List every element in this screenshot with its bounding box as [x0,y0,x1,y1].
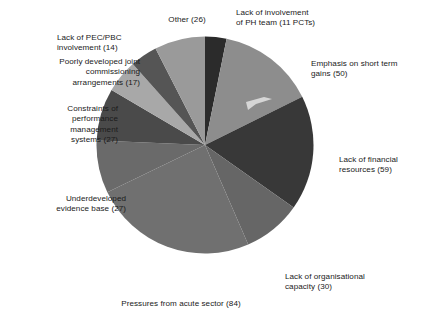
pie-chart: Lack of involvement of PH team (11 PCTs)… [0,0,431,323]
slice-label-organisational: Lack of organisational capacity (30) [285,272,407,293]
slice-label-joint-commissioning: Poorly developed joint commissioning arr… [8,57,140,88]
slice-label-evidence-base: Underdeveloped evidence base (27) [18,194,126,215]
slice-label-performance: Constraints of performance management sy… [12,104,118,146]
slice-label-ph-team: Lack of involvement of PH team (11 PCTs) [236,8,356,29]
slice-label-acute-sector: Pressures from acute sector (84) [98,299,264,309]
slice-label-financial: Lack of financial resources (59) [339,155,429,176]
slice-label-short-term: Emphasis on short term gains (50) [311,59,427,80]
slice-label-other: Other (26) [152,15,222,25]
slice-label-pec-pbc: Lack of PEC/PBC involvement (14) [57,33,157,54]
